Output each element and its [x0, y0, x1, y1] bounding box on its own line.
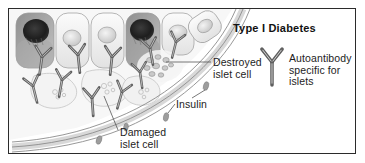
islet-cell-3: [91, 13, 124, 68]
islet-cell-2: [56, 13, 89, 68]
islet-cell-1: [16, 13, 54, 68]
legend-antibody-icon: [262, 49, 282, 85]
label-destroyed-islet-cell: Destroyed islet cell: [213, 57, 262, 80]
label-damaged-islet-cell: Damaged islet cell: [120, 127, 166, 150]
leader-insulin-upper: [192, 90, 205, 98]
leader-insulin-lower: [168, 104, 175, 113]
insulin-granule: [202, 81, 209, 91]
insulin-granule: [163, 112, 170, 122]
insulin-granule: [95, 135, 103, 145]
label-insulin: Insulin: [176, 99, 207, 111]
figure-root: Type I Diabetes Destroyed islet cell Aut…: [0, 0, 365, 163]
label-autoantibody: Autoantibody specific for islets: [289, 53, 352, 88]
islet-cell-5: [162, 13, 194, 55]
figure-title: Type I Diabetes: [233, 22, 316, 34]
